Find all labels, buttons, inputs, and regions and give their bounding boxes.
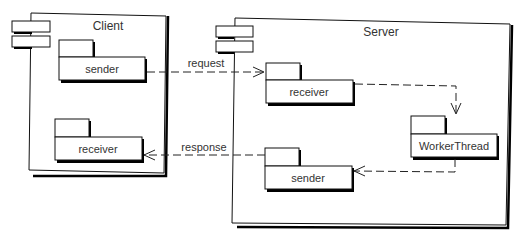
- server-sender-label: sender: [291, 172, 325, 184]
- server-component: Server receiver WorkerThread sender: [216, 18, 512, 228]
- server-receiver-label: receiver: [289, 86, 328, 98]
- server-workerthread-label: WorkerThread: [419, 140, 489, 152]
- server-label: Server: [363, 25, 398, 39]
- component-diagram: Client sender receiver: [0, 0, 522, 239]
- client-receiver-label: receiver: [78, 143, 117, 155]
- server-frame: [232, 18, 510, 225]
- client-sender-label: sender: [85, 63, 119, 75]
- client-label: Client: [93, 19, 124, 33]
- response-label: response: [181, 141, 226, 153]
- client-component: Client sender receiver: [12, 13, 168, 176]
- request-label: request: [188, 57, 225, 69]
